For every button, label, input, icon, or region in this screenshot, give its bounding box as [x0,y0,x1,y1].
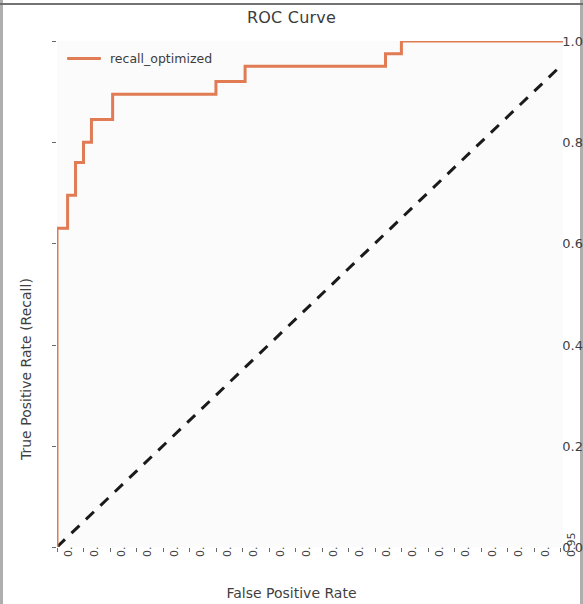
x-tick-mark [110,548,111,552]
x-tick-mark [189,548,190,552]
page-left-edge [0,0,3,604]
x-tick-mark [401,548,402,552]
y-tick-mark [52,345,56,346]
legend: recall_optimized [63,47,222,70]
x-tick-mark [295,548,296,552]
y-tick-mark [52,446,56,447]
y-tick-mark [52,142,56,143]
x-axis-label: False Positive Rate [0,585,583,601]
legend-label-recall-optimized: recall_optimized [110,51,212,66]
x-tick-mark [560,548,561,552]
x-tick-mark [534,548,535,552]
x-tick-mark [216,548,217,552]
x-tick-mark [163,548,164,552]
plot-svg [57,41,563,547]
x-tick-mark [322,548,323,552]
chart-title: ROC Curve [0,8,583,27]
x-tick-mark [454,548,455,552]
roc-curve-line [57,41,563,547]
x-tick-mark [507,548,508,552]
legend-line-swatch-recall-optimized [67,57,101,60]
x-tick-mark [481,548,482,552]
y-axis-label: True Positive Rate (Recall) [18,278,34,460]
x-tick-mark [428,548,429,552]
page-top-rule [0,3,583,5]
chance-diagonal-line [57,64,563,547]
x-tick-mark [375,548,376,552]
x-tick-mark [269,548,270,552]
x-tick-mark [136,548,137,552]
y-tick-mark [52,547,56,548]
y-tick-mark [52,243,56,244]
x-tick-mark [242,548,243,552]
y-tick-mark [52,41,56,42]
plot-area [57,41,563,547]
x-tick-label: 0.95 [565,533,578,558]
x-tick-mark [348,548,349,552]
x-tick-mark [83,548,84,552]
x-tick-mark [57,548,58,552]
roc-curve-figure: ROC Curve 0.00.20.40.60.81.0 0.000.050.1… [0,0,583,604]
